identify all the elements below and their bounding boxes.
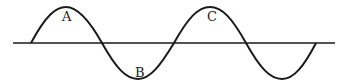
wave-diagram: A B C: [0, 0, 348, 84]
label-c: C: [207, 9, 217, 24]
label-b: B: [135, 65, 145, 80]
label-a: A: [61, 9, 72, 24]
